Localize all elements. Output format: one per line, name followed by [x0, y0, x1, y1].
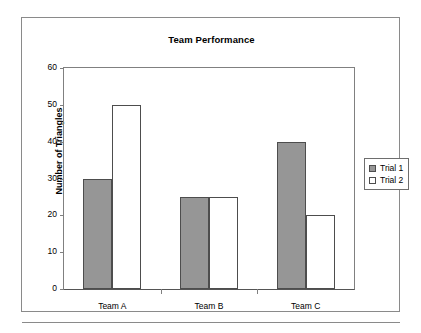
- bar-team-c-trial-2: [306, 215, 335, 289]
- y-tick-mark: [60, 252, 64, 253]
- legend-label: Trial 2: [380, 175, 403, 185]
- x-tick-mark: [161, 289, 162, 294]
- y-tick-label: 10: [48, 246, 57, 256]
- legend-item-trial-1[interactable]: Trial 1: [369, 162, 403, 174]
- bar-team-a-trial-1: [83, 179, 112, 290]
- plot-area: 0102030405060 Team ATeam BTeam C: [63, 67, 355, 290]
- legend-item-trial-2[interactable]: Trial 2: [369, 174, 403, 186]
- chart-frame: Team Performance Number of Triangles 010…: [21, 17, 400, 312]
- y-tick-label: 0: [52, 283, 57, 293]
- y-tick-label: 30: [48, 173, 57, 183]
- y-tick-mark: [60, 142, 64, 143]
- y-tick-label: 50: [48, 99, 57, 109]
- y-tick-mark: [60, 105, 64, 106]
- bar-team-a-trial-2: [112, 105, 141, 289]
- bar-team-b-trial-2: [209, 197, 238, 289]
- y-tick-mark: [60, 179, 64, 180]
- y-tick-label: 40: [48, 136, 57, 146]
- x-category-label: Team C: [257, 301, 354, 311]
- y-tick-label: 20: [48, 209, 57, 219]
- x-category-label: Team A: [64, 301, 161, 311]
- y-tick-mark: [60, 68, 64, 69]
- legend-label: Trial 1: [380, 163, 403, 173]
- legend-swatch-icon: [369, 165, 376, 172]
- x-tick-mark: [257, 289, 258, 294]
- x-category-label: Team B: [161, 301, 258, 311]
- y-tick-label: 60: [48, 62, 57, 72]
- chart-title: Team Performance: [22, 34, 401, 45]
- y-tick-mark: [60, 215, 64, 216]
- bar-team-c-trial-1: [277, 142, 306, 289]
- legend-swatch-icon: [369, 177, 376, 184]
- bottom-divider: [22, 322, 400, 323]
- y-tick-mark: [60, 289, 64, 290]
- chart-legend: Trial 1Trial 2: [364, 158, 409, 190]
- bar-team-b-trial-1: [180, 197, 209, 289]
